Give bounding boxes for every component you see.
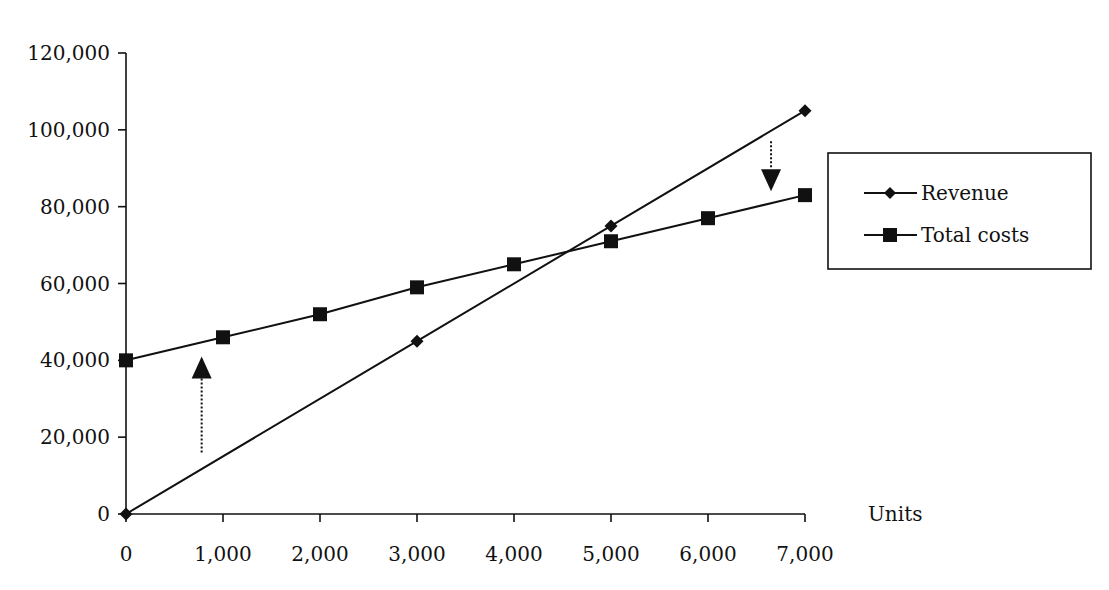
- y-tick-label: 120,000: [27, 41, 110, 65]
- y-tick-label: 60,000: [40, 272, 110, 296]
- x-axis: 01,0002,0003,0004,0005,0006,0007,000Unit…: [120, 502, 923, 566]
- legend-box: [828, 153, 1091, 269]
- square-marker: [313, 307, 327, 321]
- square-marker: [507, 257, 521, 271]
- chart-canvas: 020,00040,00060,00080,000100,000120,000 …: [0, 0, 1109, 590]
- diamond-marker: [120, 508, 133, 521]
- square-marker: [883, 228, 897, 242]
- y-tick-label: 100,000: [27, 118, 110, 142]
- x-tick-label: 1,000: [194, 542, 251, 566]
- square-marker: [798, 188, 812, 202]
- y-tick-label: 20,000: [40, 425, 110, 449]
- series-layer: [119, 104, 812, 520]
- diamond-marker: [605, 219, 618, 232]
- diamond-marker: [411, 335, 424, 348]
- y-tick-label: 40,000: [40, 348, 110, 372]
- x-tick-label: 6,000: [679, 542, 736, 566]
- x-axis-title: Units: [868, 502, 922, 526]
- legend: RevenueTotal costs: [828, 153, 1091, 269]
- x-tick-label: 3,000: [388, 542, 445, 566]
- legend-label: Revenue: [921, 181, 1009, 205]
- x-tick-label: 4,000: [485, 542, 542, 566]
- legend-label: Total costs: [921, 223, 1029, 247]
- y-axis: 020,00040,00060,00080,000100,000120,000: [27, 41, 126, 526]
- square-marker: [410, 280, 424, 294]
- x-tick-label: 2,000: [291, 542, 348, 566]
- series-line: [126, 111, 805, 514]
- x-tick-label: 7,000: [776, 542, 833, 566]
- arrow-down-icon: [761, 169, 781, 191]
- annotation-layer: [192, 141, 781, 452]
- square-marker: [216, 330, 230, 344]
- dotted-arrow-down: [761, 141, 781, 191]
- x-tick-label: 0: [120, 542, 133, 566]
- series-revenue: [120, 104, 812, 520]
- x-tick-label: 5,000: [582, 542, 639, 566]
- arrow-up-icon: [192, 356, 212, 378]
- square-marker: [604, 234, 618, 248]
- dotted-arrow-up: [192, 356, 212, 452]
- y-tick-label: 0: [97, 502, 110, 526]
- break-even-chart: 020,00040,00060,00080,000100,000120,000 …: [0, 0, 1109, 590]
- diamond-marker: [799, 104, 812, 117]
- series-total-costs: [119, 188, 812, 367]
- square-marker: [119, 353, 133, 367]
- y-tick-label: 80,000: [40, 195, 110, 219]
- square-marker: [701, 211, 715, 225]
